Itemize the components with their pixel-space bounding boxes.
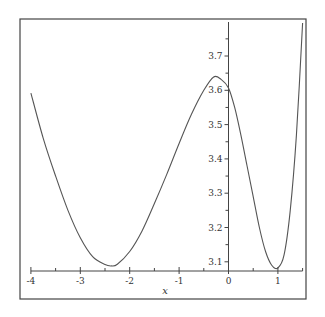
y-tick-label: 3.5 (208, 120, 223, 130)
plot-frame (20, 19, 306, 299)
y-tick-label: 3.7 (208, 51, 223, 61)
y-tick-label: 3.1 (208, 257, 222, 267)
x-axis-label: x (162, 285, 168, 296)
y-tick-label: 3.4 (208, 154, 223, 164)
y-tick-label: 3.3 (208, 188, 223, 198)
x-tick-label: 1 (275, 276, 281, 286)
x-tick-label: -4 (27, 276, 36, 286)
function-plot: -4-3-2-1013.13.23.33.43.53.63.7 x (0, 0, 325, 317)
x-tick-label: -1 (175, 276, 184, 286)
x-tick-label: -2 (125, 276, 134, 286)
axes: -4-3-2-1013.13.23.33.43.53.63.7 (27, 22, 303, 286)
function-curve (31, 23, 303, 269)
y-tick-label: 3.6 (208, 85, 223, 95)
curve (31, 23, 303, 269)
x-tick-label: 0 (226, 276, 232, 286)
y-tick-label: 3.2 (208, 223, 222, 233)
x-tick-label: -3 (76, 276, 85, 286)
